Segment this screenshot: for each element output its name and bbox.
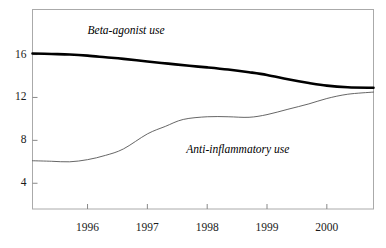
x-tick-label: 1998 [187,222,227,234]
chart-figure: 481216 19961997199819992000 Beta-agonist… [0,0,386,248]
y-tick-label: 12 [5,91,27,103]
series-label: Anti-inflammatory use [186,144,289,156]
x-tick-label: 1996 [68,222,108,234]
x-tick-label: 1999 [247,222,287,234]
x-tick-label: 2000 [307,222,347,234]
plot-frame [33,10,374,210]
y-tick-label: 16 [5,49,27,61]
series-label: Beta-agonist use [88,25,165,37]
y-tick-label: 8 [5,134,27,146]
x-tick-label: 1997 [127,222,167,234]
plot-area [0,0,386,248]
y-tick-label: 4 [5,177,27,189]
